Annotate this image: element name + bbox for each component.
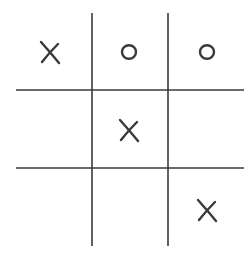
x-mark-icon [172, 175, 242, 245]
cell-r2-c2[interactable] [94, 95, 164, 165]
o-mark-icon [172, 17, 242, 87]
cell-r1-c3[interactable] [172, 17, 242, 87]
cell-r1-c2[interactable] [94, 17, 164, 87]
cell-r2-c1[interactable] [15, 95, 85, 165]
o-mark-icon [94, 17, 164, 87]
cell-r3-c2[interactable] [94, 175, 164, 245]
x-mark-icon [94, 95, 164, 165]
x-mark-icon [15, 17, 85, 87]
cell-r3-c3[interactable] [172, 175, 242, 245]
cell-r3-c1[interactable] [15, 175, 85, 245]
cell-r2-c3[interactable] [172, 95, 242, 165]
cell-r1-c1[interactable] [15, 17, 85, 87]
